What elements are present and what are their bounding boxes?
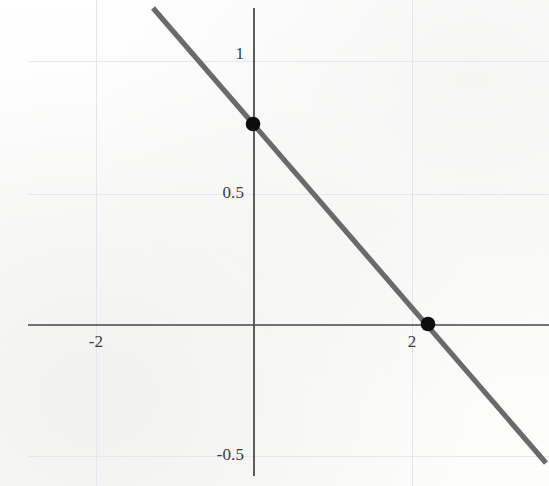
plot-area <box>0 0 549 486</box>
line-graph-figure: 1 0.5 -0.5 -2 2 <box>0 0 549 486</box>
data-point-y-intercept <box>246 117 261 132</box>
data-point-x-intercept <box>421 317 436 332</box>
linear-function-line <box>153 8 546 463</box>
